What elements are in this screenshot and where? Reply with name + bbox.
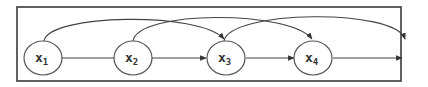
node-x2: x2 — [114, 41, 152, 75]
node-subscript: 1 — [43, 57, 48, 67]
node-subscript: 4 — [313, 57, 319, 67]
node-subscript: 3 — [226, 57, 231, 67]
node-x1: x1 — [24, 41, 62, 75]
node-x3: x3 — [207, 41, 245, 75]
node-subscript: 2 — [133, 57, 138, 67]
arc-x3-output — [224, 17, 405, 41]
diagram-canvas: x1 x2 x3 x4 — [0, 0, 428, 87]
node-x4: x4 — [294, 41, 332, 75]
